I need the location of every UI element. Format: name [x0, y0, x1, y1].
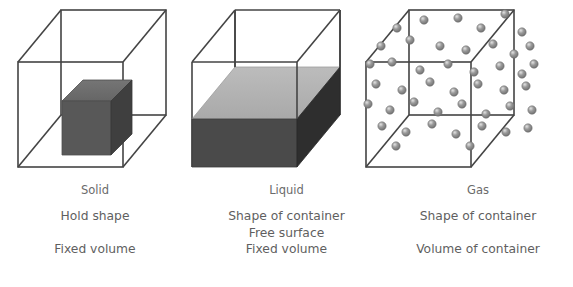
states-of-matter-figure: Solid Liquid Gas Hold shape Fixed volume…: [0, 0, 573, 287]
properties-gas: Shape of container Volume of container: [383, 208, 573, 258]
gas-particle: [502, 128, 510, 136]
gas-particle: [377, 42, 385, 50]
gas-particle: [378, 122, 386, 130]
gas-particle: [366, 60, 374, 68]
property-line: Free surface: [190, 225, 383, 242]
gas-particle: [426, 78, 434, 86]
gas-particle: [477, 24, 485, 32]
gas-particle: [501, 10, 509, 18]
column-label-liquid: Liquid: [190, 183, 383, 197]
gas-particle: [420, 16, 428, 24]
gas-particle: [474, 80, 482, 88]
property-line: Volume of container: [383, 241, 573, 258]
liquid-container: [192, 10, 340, 167]
gas-particle: [444, 60, 452, 68]
solid-block: [62, 80, 132, 155]
gas-particle: [392, 142, 400, 150]
gas-particle: [496, 62, 504, 70]
gas-particle: [402, 128, 410, 136]
containers-illustration: [0, 0, 573, 180]
property-line: Fixed volume: [190, 241, 383, 258]
gas-particle: [452, 130, 460, 138]
gas-particle: [518, 28, 526, 36]
gas-particle: [530, 60, 538, 68]
column-label-solid: Solid: [0, 183, 190, 197]
properties-solid: Hold shape Fixed volume: [0, 208, 190, 258]
gas-particle: [522, 82, 530, 90]
gas-particle: [393, 24, 401, 32]
gas-particle: [500, 86, 508, 94]
gas-particle: [518, 70, 526, 78]
gas-particle: [524, 124, 532, 132]
solid-container: [18, 10, 166, 167]
gas-particle: [526, 42, 534, 50]
gas-particle: [482, 110, 490, 118]
gas-container: [364, 10, 538, 167]
gas-particle: [478, 122, 486, 130]
gas-particle: [406, 36, 414, 44]
gas-particle: [458, 100, 466, 108]
gas-particle: [466, 142, 474, 150]
gas-particle: [506, 102, 514, 110]
liquid-body: [192, 67, 340, 167]
gas-particle: [386, 106, 394, 114]
gas-particle: [398, 86, 406, 94]
property-line: Hold shape: [0, 208, 190, 225]
gas-particle: [462, 46, 470, 54]
gas-cube-wireframe: [366, 10, 514, 167]
gas-particle: [434, 108, 442, 116]
gas-particle: [428, 120, 436, 128]
gas-particle: [410, 98, 418, 106]
gas-particle: [416, 66, 424, 74]
gas-particle: [436, 42, 444, 50]
property-line: Fixed volume: [0, 241, 190, 258]
column-label-gas: Gas: [383, 183, 573, 197]
property-line: Shape of container: [383, 208, 573, 225]
gas-particle: [388, 58, 396, 66]
gas-particle: [372, 80, 380, 88]
property-line: Shape of container: [190, 208, 383, 225]
gas-particle: [364, 100, 372, 108]
gas-particle: [470, 68, 478, 76]
gas-particle: [450, 88, 458, 96]
property-line: [0, 225, 190, 242]
gas-particle: [454, 14, 462, 22]
gas-particles: [364, 10, 538, 150]
gas-particle: [510, 50, 518, 58]
gas-particle: [528, 106, 536, 114]
property-line: [383, 225, 573, 242]
gas-particle: [489, 40, 497, 48]
properties-liquid: Shape of container Free surface Fixed vo…: [190, 208, 383, 258]
